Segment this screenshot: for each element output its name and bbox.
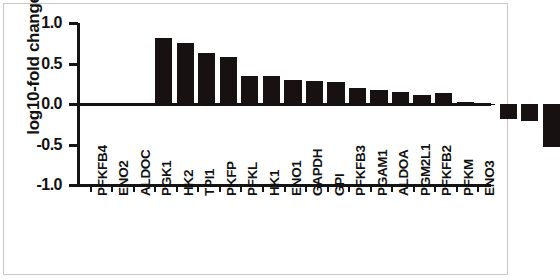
x-axis-tick-label-hk1: HK1 bbox=[268, 170, 282, 196]
bar-pkfp bbox=[284, 80, 301, 104]
bar-pfkl bbox=[306, 81, 323, 104]
bar-pfkm bbox=[521, 104, 538, 121]
bar-pfkfb2 bbox=[500, 104, 517, 119]
x-axis-tick-label-eno1: ENO1 bbox=[290, 160, 304, 196]
x-axis-tick-label-aldoa: ALDOA bbox=[397, 150, 411, 197]
x-axis-tick-label-gapdh: GAPDH bbox=[311, 149, 325, 196]
x-axis-tick bbox=[90, 184, 92, 192]
x-axis-tick bbox=[284, 184, 286, 192]
x-axis-tick bbox=[262, 184, 264, 192]
bar-pgm2l1 bbox=[478, 104, 495, 106]
bar-eno3 bbox=[543, 104, 560, 147]
bar-pfkfb3 bbox=[413, 95, 430, 104]
bar-gpi bbox=[392, 92, 409, 104]
x-axis-tick-label-pfkfb4: PFKFB4 bbox=[96, 145, 110, 196]
x-axis-tick bbox=[305, 184, 307, 192]
x-axis-tick bbox=[197, 184, 199, 192]
x-axis-tick-label-tpi1: TPI1 bbox=[203, 169, 217, 196]
x-axis-tick-label-eno2: ENO2 bbox=[117, 160, 131, 196]
bar-pgam1 bbox=[435, 93, 452, 104]
x-axis-tick bbox=[391, 184, 393, 192]
bar-pgk1 bbox=[220, 57, 237, 104]
x-axis-tick-label-pfkfb2: PFKFB2 bbox=[440, 145, 454, 196]
x-axis-tick-label-gpi: GPI bbox=[333, 174, 347, 196]
x-axis-tick bbox=[327, 184, 329, 192]
bar-aldoa bbox=[457, 102, 474, 104]
x-axis-tick-label-eno3: ENO3 bbox=[483, 160, 497, 196]
x-axis-tick bbox=[219, 184, 221, 192]
bar-gapdh bbox=[370, 90, 387, 104]
y-axis-tick-label: -0.5 bbox=[14, 137, 62, 153]
bar-tpi1 bbox=[263, 76, 280, 104]
x-axis-tick bbox=[176, 184, 178, 192]
x-axis-tick bbox=[477, 184, 479, 192]
x-axis-tick bbox=[434, 184, 436, 192]
bar-hk1 bbox=[327, 82, 344, 104]
x-axis-tick-label-pgk1: PGK1 bbox=[160, 160, 174, 196]
x-axis-tick bbox=[456, 184, 458, 192]
x-axis-tick-label-pkfp: PKFP bbox=[225, 161, 239, 196]
x-axis-tick-label-hk2: HK2 bbox=[182, 170, 196, 196]
x-axis-tick bbox=[133, 184, 135, 192]
y-axis-tick-label: -1.0 bbox=[14, 177, 62, 193]
x-axis-tick-label-pfkl: PFKL bbox=[246, 162, 260, 196]
y-axis-tick-label: 0.0 bbox=[14, 96, 62, 112]
x-axis-tick bbox=[111, 184, 113, 192]
y-axis-tick-label: 1.0 bbox=[14, 15, 62, 31]
bar-eno2 bbox=[177, 43, 194, 104]
bar-aldoc bbox=[198, 53, 215, 104]
x-axis-tick bbox=[348, 184, 350, 192]
figure-frame: log10-fold change 1.00.50.0-0.5-1.0 PFKF… bbox=[3, 3, 508, 275]
x-axis-tick bbox=[154, 184, 156, 192]
bar-pfkfb4 bbox=[155, 38, 172, 104]
x-axis-tick-label-pfkfb3: PFKFB3 bbox=[354, 145, 368, 196]
bar-eno1 bbox=[349, 88, 366, 104]
x-axis-tick-label-pgm2l1: PGM2L1 bbox=[419, 144, 433, 196]
y-axis-tick-label: 0.5 bbox=[14, 56, 62, 72]
x-axis-tick bbox=[370, 184, 372, 192]
x-axis-tick bbox=[413, 184, 415, 192]
x-axis-tick-label-pgam1: PGAM1 bbox=[376, 149, 390, 196]
x-axis-tick-label-aldoc: ALDOC bbox=[139, 150, 153, 197]
bar-hk2 bbox=[241, 76, 258, 104]
x-axis-tick bbox=[240, 184, 242, 192]
x-axis-tick-label-pfkm: PFKM bbox=[462, 159, 476, 196]
